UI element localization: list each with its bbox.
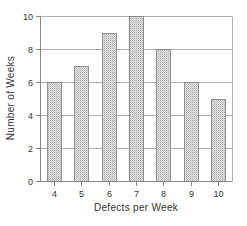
bar-chart: 0246810 45678910 Defects per Week Number…	[0, 0, 247, 226]
bar-10	[212, 100, 226, 182]
y-tick-label: 2	[28, 144, 33, 154]
x-tick-label: 5	[79, 189, 84, 199]
y-tick-label: 10	[23, 12, 33, 22]
bar-5	[75, 67, 89, 182]
x-tick-label: 4	[52, 189, 57, 199]
x-axis-label: Defects per Week	[94, 202, 179, 213]
y-axis-ticks: 0246810	[23, 12, 40, 187]
y-tick-label: 0	[28, 177, 33, 187]
bar-7	[130, 17, 144, 182]
x-tick-label: 7	[134, 189, 139, 199]
y-tick-label: 4	[28, 111, 33, 121]
x-tick-label: 8	[161, 189, 166, 199]
x-tick-label: 10	[213, 189, 223, 199]
x-tick-label: 9	[189, 189, 194, 199]
x-tick-label: 6	[107, 189, 112, 199]
bar-4	[48, 83, 62, 182]
bar-8	[157, 50, 171, 182]
y-axis-label: Number of Weeks	[5, 56, 16, 140]
bars	[48, 17, 226, 182]
y-tick-label: 8	[28, 45, 33, 55]
bar-9	[185, 83, 199, 182]
bar-6	[103, 34, 117, 182]
y-tick-label: 6	[28, 78, 33, 88]
x-axis-ticks: 45678910	[52, 181, 224, 199]
